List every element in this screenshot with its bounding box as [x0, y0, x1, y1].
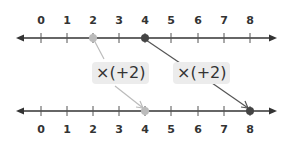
- tick-label: 5: [167, 14, 175, 27]
- point-top-2: [89, 34, 97, 42]
- tick-label: 1: [63, 123, 71, 136]
- tick-label: 8: [246, 14, 254, 27]
- tick-label: 6: [194, 123, 202, 136]
- tick-label: 4: [141, 14, 149, 27]
- tick-label: 5: [167, 123, 175, 136]
- left-arrow-icon: [16, 108, 24, 115]
- operation-text: ×(+2): [177, 63, 226, 82]
- right-arrow-icon: [269, 108, 277, 115]
- operation-label-dark: ×(+2): [173, 62, 230, 84]
- tick-label: 6: [194, 14, 202, 27]
- tick-label: 1: [63, 14, 71, 27]
- tick-label: 4: [141, 123, 149, 136]
- operation-text: ×(+2): [96, 63, 145, 82]
- tick-label: 3: [115, 123, 123, 136]
- tick-label: 7: [220, 14, 228, 27]
- tick-label: 7: [220, 123, 228, 136]
- left-arrow-icon: [16, 35, 24, 42]
- point-top-4: [141, 34, 149, 42]
- tick-label: 2: [89, 14, 97, 27]
- tick-label: 2: [89, 123, 97, 136]
- right-arrow-icon: [269, 35, 277, 42]
- tick-label: 0: [37, 123, 45, 136]
- tick-label: 3: [115, 14, 123, 27]
- tick-label: 8: [246, 123, 254, 136]
- operation-label-light: ×(+2): [92, 62, 149, 84]
- tick-label: 0: [37, 14, 45, 27]
- point-bottom-8: [246, 107, 254, 115]
- point-bottom-4: [141, 107, 149, 115]
